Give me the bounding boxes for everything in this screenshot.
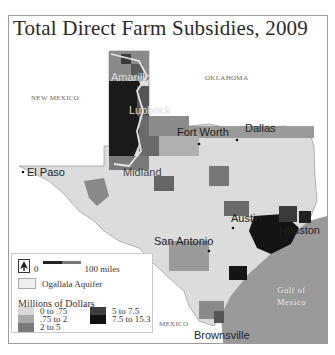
north-arrow-icon [18, 259, 30, 273]
swatch-2 [18, 323, 34, 332]
legend-class-4: 7.5 to 15.3 [90, 314, 151, 324]
city-label-austin: Austin [231, 212, 262, 224]
water-label-gulf-of-mexico: Gulf of Mexico [277, 284, 306, 308]
city-label-dallas: Dallas [245, 122, 276, 134]
city-label-san-antonio: San Antonio [154, 235, 213, 247]
aquifer-row: Ogallala Aquifer [18, 278, 102, 289]
country-label-mexico: MEXICO [159, 320, 188, 328]
city-label-fort-worth: Fort Worth [177, 126, 229, 138]
scale-end-label: 100 miles [85, 264, 120, 274]
gulf-label-line1: Gulf of [277, 284, 306, 296]
city-label-midland: Midland [123, 166, 162, 178]
city-label-lubbock: Lubbock [129, 104, 171, 116]
scale-bar [43, 261, 81, 264]
city-label-amarillo: Amarillo [111, 71, 151, 83]
swatch-4 [90, 315, 106, 324]
city-label-houston: Houston [279, 224, 320, 236]
scale-start-label: 0 [34, 264, 39, 274]
state-label-oklahoma: OKLAHOMA [205, 74, 248, 82]
gulf-label-line2: Mexico [277, 296, 306, 308]
city-label-el-paso: El Paso [27, 166, 65, 178]
aquifer-label: Ogallala Aquifer [42, 279, 102, 289]
city-label-brownsville: Brownsville [194, 329, 250, 341]
class-label-2: 2 to 5 [40, 322, 61, 332]
aquifer-swatch [18, 278, 36, 289]
scale-row: 0 100 miles [18, 258, 120, 274]
map-legend: 0 100 miles Ogallala Aquifer Millions of… [11, 253, 153, 333]
legend-class-2: 2 to 5 [18, 322, 61, 332]
map-frame: Total Direct Farm Subsidies, 2009 [8, 15, 328, 344]
class-label-4: 7.5 to 15.3 [112, 314, 151, 324]
state-label-new-mexico: NEW MEXICO [31, 94, 79, 102]
